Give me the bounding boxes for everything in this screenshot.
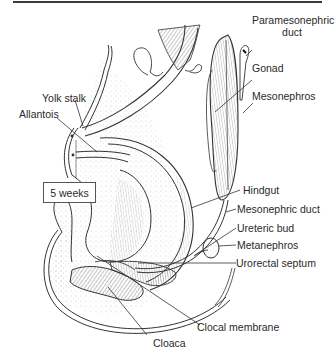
label-cloaca: Cloaca xyxy=(153,337,186,349)
label-paramesonephric-line1: Paramesonephric xyxy=(252,14,332,26)
label-allantois: Allantois xyxy=(19,108,59,120)
label-paramesonephric-line2: duct xyxy=(252,26,332,38)
label-hindgut: Hindgut xyxy=(243,184,279,196)
label-clocal-membrane: Clocal membrane xyxy=(197,321,279,333)
embryo-illustration xyxy=(0,0,336,360)
label-gonad: Gonad xyxy=(252,62,284,74)
label-ureteric-bud: Ureteric bud xyxy=(237,222,294,234)
label-urorectal-septum: Urorectal septum xyxy=(236,257,316,269)
label-metanephros: Metanephros xyxy=(237,239,298,251)
embryo-diagram: Paramesonephric duct Gonad Mesonephros Y… xyxy=(0,0,336,360)
label-mesonephric-duct: Mesonephric duct xyxy=(237,203,320,215)
label-paramesonephric-duct: Paramesonephric duct xyxy=(252,14,332,38)
label-mesonephros: Mesonephros xyxy=(252,90,316,102)
stage-age-box: 5 weeks xyxy=(43,182,96,203)
label-yolk-stalk: Yolk stalk xyxy=(42,92,86,104)
